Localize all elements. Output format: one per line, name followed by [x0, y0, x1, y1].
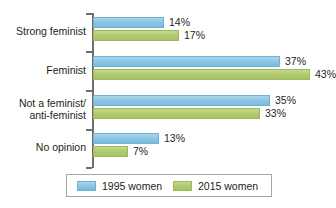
bar-2015-women	[93, 69, 310, 80]
category-label: Feminist	[0, 64, 86, 76]
legend-item-1995-women: 1995 women	[77, 175, 162, 196]
axis-tick	[86, 167, 92, 169]
legend-label: 2015 women	[198, 180, 258, 192]
category-group: Feminist 37% 43%	[0, 51, 329, 90]
legend-label: 1995 women	[102, 180, 162, 192]
bar-value-label: 7%	[133, 145, 148, 157]
bar-value-label: 37%	[285, 55, 306, 67]
legend-item-2015-women: 2015 women	[173, 175, 258, 196]
bar-2015-women	[93, 146, 128, 157]
category-group: Strong feminist 14% 17%	[0, 13, 329, 51]
bar-value-label: 17%	[184, 29, 205, 41]
category-label: No opinion	[0, 141, 86, 153]
bar-value-label: 14%	[169, 16, 190, 28]
bar-value-label: 35%	[275, 94, 296, 106]
bar-1995-women	[93, 17, 164, 28]
category-group: Not a feminist/ anti-feminist 35% 33%	[0, 90, 329, 129]
bar-value-label: 43%	[315, 68, 336, 80]
bar-1995-women	[93, 95, 270, 106]
chart-legend: 1995 women 2015 women	[66, 174, 272, 197]
bar-1995-women	[93, 56, 280, 67]
category-group: No opinion 13% 7%	[0, 129, 329, 167]
category-label: Not a feminist/ anti-feminist	[0, 97, 86, 121]
plot-area: Strong feminist 14% 17% Feminist 37% 43%	[0, 0, 329, 172]
bar-2015-women	[93, 108, 260, 119]
bar-value-label: 13%	[164, 132, 185, 144]
bar-1995-women	[93, 133, 159, 144]
legend-swatch-icon	[77, 181, 96, 191]
bar-value-label: 33%	[265, 107, 286, 119]
legend-swatch-icon	[173, 181, 192, 191]
bar-2015-women	[93, 30, 179, 41]
category-label: Strong feminist	[0, 25, 86, 37]
